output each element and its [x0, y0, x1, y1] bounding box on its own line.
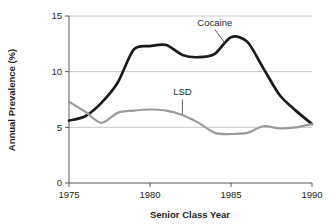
y-axis-title: Annual Prevalence (%)	[6, 49, 17, 151]
x-axis-title: Senior Class Year	[150, 209, 230, 220]
y-tick-label-10: 10	[51, 66, 62, 77]
x-tick-label-1975: 1975	[58, 189, 79, 200]
chart-container: 051015 1975198019851990 CocaineLSD Senio…	[0, 0, 336, 224]
series-label-lsd: LSD	[173, 86, 192, 97]
x-tick-label-1990: 1990	[301, 189, 322, 200]
y-tick-label-0: 0	[57, 177, 62, 188]
series-label-cocaine: Cocaine	[197, 17, 232, 28]
x-tick-label-1985: 1985	[220, 189, 241, 200]
y-tick-label-5: 5	[57, 122, 62, 133]
line-chart: 051015 1975198019851990 CocaineLSD Senio…	[0, 0, 336, 224]
y-tick-label-15: 15	[51, 10, 62, 21]
x-tick-label-1980: 1980	[139, 189, 160, 200]
